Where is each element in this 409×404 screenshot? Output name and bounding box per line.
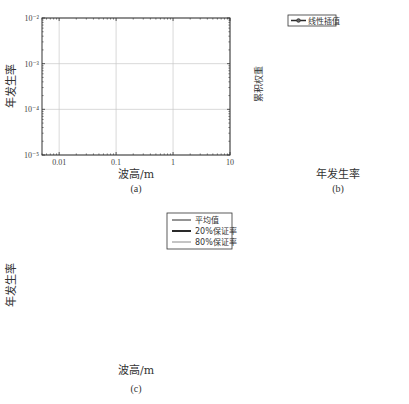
- panel-b-legend-label: 线性插值: [308, 16, 340, 26]
- x-tick-label: 0.01: [52, 158, 66, 167]
- y-tick-label: 10⁻⁴: [24, 105, 39, 114]
- panel-b-ylabel: 累积权重: [253, 66, 264, 102]
- panel-a-frame: [42, 18, 230, 155]
- legend-marker-icon: [297, 19, 301, 23]
- x-tick-label: 10: [226, 158, 234, 167]
- panel-c-chart: 平均值 20%保证率 80%保证率 波高/m (c) 年发生率: [4, 213, 237, 395]
- panel-b-legend: 线性插值: [288, 15, 340, 26]
- panel-a-ylabel: 年发生率: [4, 64, 18, 108]
- panel-b-xlabel: 年发生率: [316, 167, 360, 181]
- panel-a-grid: [42, 18, 230, 155]
- x-tick-label: 0.1: [111, 158, 121, 167]
- y-tick-label: 10⁻³: [24, 60, 39, 69]
- panel-a-chart: 0.010.111010⁻²10⁻³10⁻⁴10⁻⁵ 波高/m (a) 年发生率: [4, 14, 234, 195]
- panel-c-xlabel: 波高/m: [118, 363, 155, 377]
- y-tick-label: 10⁻⁵: [24, 151, 39, 160]
- legend-p80-label: 80%保证率: [195, 237, 237, 247]
- legend-mean-label: 平均值: [195, 215, 219, 225]
- panel-b-chart: 线性插值 年发生率 (b) 累积权重: [253, 15, 360, 195]
- figure: 0.010.111010⁻²10⁻³10⁻⁴10⁻⁵ 波高/m (a) 年发生率…: [0, 0, 409, 404]
- panel-b-caption: (b): [332, 183, 344, 195]
- legend-p20-label: 20%保证率: [195, 226, 237, 236]
- panel-a-ticks: 0.010.111010⁻²10⁻³10⁻⁴10⁻⁵: [24, 14, 234, 167]
- panel-c-caption: (c): [130, 383, 141, 395]
- panel-c-legend: 平均值 20%保证率 80%保证率: [167, 213, 237, 249]
- panel-a-caption: (a): [130, 183, 141, 195]
- x-tick-label: 1: [171, 158, 175, 167]
- panel-c-ylabel: 年发生率: [4, 263, 18, 307]
- y-tick-label: 10⁻²: [24, 14, 39, 23]
- panel-a-xlabel: 波高/m: [118, 167, 155, 181]
